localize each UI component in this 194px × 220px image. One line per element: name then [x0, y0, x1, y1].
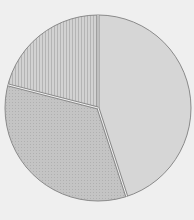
pie-slices	[5, 15, 191, 201]
pie-chart	[0, 0, 194, 220]
